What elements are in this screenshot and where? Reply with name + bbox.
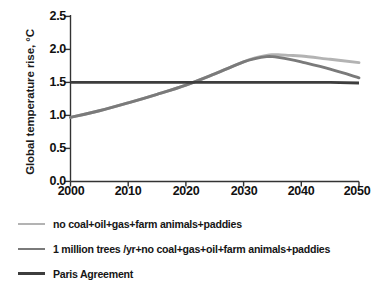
legend-item: 1 million trees /yr+no coal+gas+oil+farm… (0, 236, 377, 261)
legend-item: no coal+oil+gas+farm animals+paddies (0, 211, 377, 236)
legend-item: Paris Agreement (0, 261, 377, 286)
legend-item-label: Paris Agreement (53, 268, 133, 280)
chart-figure: Global temperature rise, °C 2.5 2.0 1.5 … (0, 0, 377, 294)
x-axis-tick-labels: 2000 2010 2020 2030 2040 2050 (0, 184, 377, 206)
x-tick-label: 2030 (217, 184, 271, 198)
legend-color-swatch (18, 223, 45, 225)
legend-item-label: 1 million trees /yr+no coal+gas+oil+farm… (53, 243, 330, 255)
y-axis-tick-labels: 2.5 2.0 1.5 1.0 0.5 0.0 (28, 0, 66, 200)
x-tick-label: 2050 (330, 184, 377, 198)
y-tick-label: 2.5 (32, 9, 66, 23)
y-tick-label: 1.0 (32, 108, 66, 122)
x-tick-label: 2020 (159, 184, 213, 198)
y-tick-label: 2.0 (32, 42, 66, 56)
x-tick-label: 2010 (101, 184, 155, 198)
series-line-paris-agreement (71, 82, 360, 83)
y-tick-label: 0.5 (32, 141, 66, 155)
x-tick-label: 2000 (44, 184, 98, 198)
legend-item-label: no coal+oil+gas+farm animals+paddies (53, 218, 242, 230)
legend-color-swatch (18, 272, 45, 275)
chart-legend: no coal+oil+gas+farm animals+paddies 1 m… (0, 211, 377, 286)
series-line-million-trees (71, 56, 360, 117)
y-tick-label: 1.5 (32, 75, 66, 89)
x-tick-label: 2040 (274, 184, 328, 198)
legend-color-swatch (18, 248, 45, 250)
plot-area: Global temperature rise, °C 2.5 2.0 1.5 … (0, 0, 377, 200)
